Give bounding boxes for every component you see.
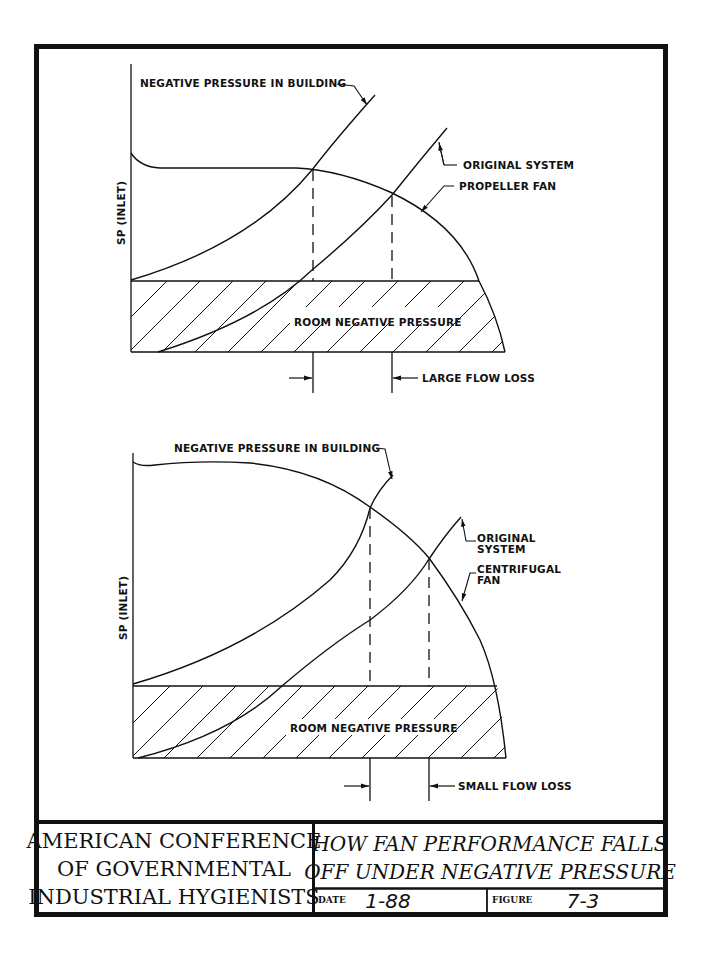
title-block: AMERICAN CONFERENCE OF GOVERNMENTAL INDU… <box>26 822 677 914</box>
figure-sheet: NEGATIVE PRESSURE IN BUILDING ORIGINAL S… <box>0 0 702 955</box>
figure-label: FIGURE <box>492 895 533 905</box>
bottom-chart: NEGATIVE PRESSURE IN BUILDING ORIGINAL S… <box>98 442 572 801</box>
bottom-building-system-curve <box>133 475 393 684</box>
org-name-line-1: AMERICAN CONFERENCE <box>26 829 322 853</box>
top-label-fan: PROPELLER FAN <box>459 180 556 192</box>
top-building-system-curve <box>131 95 375 280</box>
org-name-line-2: OF GOVERNMENTAL <box>57 857 291 881</box>
centrifugal-fan-curve <box>133 462 506 758</box>
figure-title-line-2: OFF UNDER NEGATIVE PRESSURE <box>304 860 676 884</box>
top-y-axis-label: SP (INLET) <box>115 181 127 245</box>
bottom-y-axis-label: SP (INLET) <box>117 576 129 640</box>
bottom-label-original-2: SYSTEM <box>477 543 526 555</box>
org-name-line-3: INDUSTRIAL HYGIENISTS <box>28 885 320 909</box>
figure-number: 7-3 <box>567 889 600 913</box>
date-label: DATE <box>318 895 346 905</box>
top-label-room: ROOM NEGATIVE PRESSURE <box>294 316 462 328</box>
bottom-label-building: NEGATIVE PRESSURE IN BUILDING <box>174 442 380 454</box>
figure-title-line-1: HOW FAN PERFORMANCE FALLS <box>311 832 667 856</box>
bottom-label-fan-2: FAN <box>477 574 500 586</box>
top-label-loss: LARGE FLOW LOSS <box>422 372 535 384</box>
bottom-label-loss: SMALL FLOW LOSS <box>458 780 572 792</box>
date-value: 1-88 <box>365 889 410 913</box>
bottom-label-room: ROOM NEGATIVE PRESSURE <box>290 722 458 734</box>
top-chart: NEGATIVE PRESSURE IN BUILDING ORIGINAL S… <box>96 64 574 393</box>
top-label-original: ORIGINAL SYSTEM <box>463 159 574 171</box>
top-label-building: NEGATIVE PRESSURE IN BUILDING <box>140 77 346 89</box>
